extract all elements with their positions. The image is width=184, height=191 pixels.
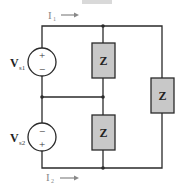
- impedance-2: Z: [92, 115, 115, 150]
- impedance-3: Z: [151, 78, 174, 113]
- plus-sign: +: [39, 138, 45, 150]
- source-2-subscript: s2: [19, 139, 26, 147]
- source-2-label: V: [10, 131, 19, 145]
- current-1-label: I: [48, 9, 52, 21]
- current-1-subscript: 1: [53, 16, 56, 22]
- voltage-source-1: + −: [28, 48, 56, 76]
- current-1: I 1: [48, 9, 79, 22]
- plus-sign: +: [39, 49, 45, 61]
- current-2-subscript: 2: [51, 178, 54, 184]
- minus-sign: −: [39, 63, 45, 75]
- minus-sign: −: [39, 125, 45, 137]
- circuit-diagram: + − V s1 − + V s2 Z Z Z I 1 I 2: [0, 0, 184, 191]
- impedance-label: Z: [158, 89, 166, 103]
- voltage-source-2: − +: [28, 123, 56, 151]
- current-2: I 2: [46, 171, 79, 184]
- impedance-label: Z: [99, 126, 107, 140]
- source-1-label: V: [10, 56, 19, 70]
- current-2-label: I: [46, 171, 50, 183]
- top-bar: [82, 0, 112, 4]
- impedance-1: Z: [92, 43, 115, 78]
- impedance-label: Z: [99, 54, 107, 68]
- source-1-subscript: s1: [19, 64, 26, 72]
